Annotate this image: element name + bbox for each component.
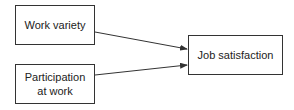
node-label: Job satisfaction [198, 48, 274, 62]
node-work-variety: Work variety [15, 5, 95, 45]
node-label: Work variety [25, 18, 86, 32]
node-participation-at-work: Participation at work [15, 64, 95, 104]
edge-work-variety-to-job-satisfaction [95, 32, 187, 49]
node-label: Participation at work [20, 70, 90, 98]
node-job-satisfaction: Job satisfaction [188, 35, 283, 75]
edge-participation-to-job-satisfaction [95, 65, 187, 75]
